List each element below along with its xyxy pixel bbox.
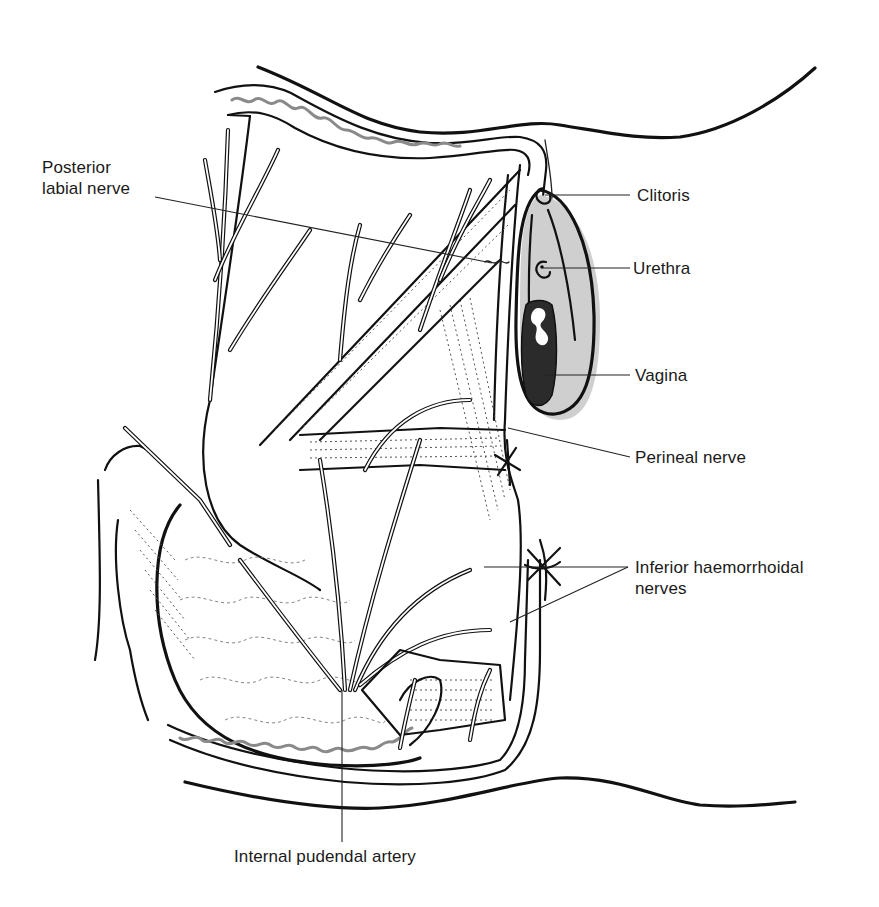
leader-perineal-nerve [508,428,630,457]
anal-sphincter-block [362,650,505,735]
label-urethra: Urethra [633,258,690,279]
fat-lobules-5 [225,717,385,723]
pudendal-trunk [240,400,490,690]
transverse-perineal-stipple [310,438,500,458]
perineum-drawing [0,0,879,907]
label-line: nerves [635,578,875,599]
label-line: labial nerve [42,178,282,199]
label-line: Inferior haemorrhoidal [635,557,875,578]
body-contour-bottom [185,778,795,808]
transverse-perineal-bottom [300,465,505,470]
bulbospongiosus-stipple [440,298,510,520]
label-inferior-haemorrhoidal-nerves: Inferior haemorrhoidal nerves [635,557,875,599]
body-contour-top [258,67,815,138]
label-vagina: Vagina [635,365,687,386]
ischiocavernosus-1 [260,170,520,445]
fat-lobules-3 [185,637,355,643]
fat-lobules-2 [180,597,350,603]
ischioanal-fat-outline [157,505,420,766]
buttock-skin [95,446,148,720]
ischiocavernosus-2 [290,205,515,440]
anatomical-illustration: Posterior labial nerve Clitoris Urethra … [0,0,879,907]
perineal-body-star-mark [495,440,520,485]
upper-flap-edge [228,115,250,116]
ischiocavernosus-stipple [275,190,510,430]
label-clitoris: Clitoris [637,185,690,206]
label-internal-pudendal-artery: Internal pudendal artery [234,846,416,867]
anus-star-mark [525,540,560,600]
label-perineal-nerve: Perineal nerve [635,447,746,468]
gluteal-vessel-trunk [125,428,230,545]
fat-lobules-1 [185,557,305,563]
label-line: Posterior [42,157,282,178]
leader-posterior-labial-nerve [155,197,492,263]
label-posterior-labial-nerve: Posterior labial nerve [42,157,282,199]
